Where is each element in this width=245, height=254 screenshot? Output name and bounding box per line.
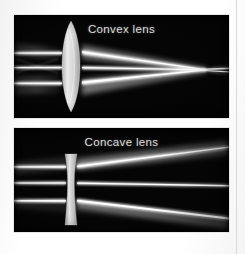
concave-panel-title: Concave lens [14, 136, 229, 148]
column-rule-right [236, 0, 237, 254]
concave-lens-figure-panel: Concave lens [14, 128, 229, 232]
figure-page: Convex lens [0, 0, 245, 254]
convex-panel-title: Convex lens [14, 23, 229, 35]
convex-lens-figure-panel: Convex lens [14, 15, 229, 118]
